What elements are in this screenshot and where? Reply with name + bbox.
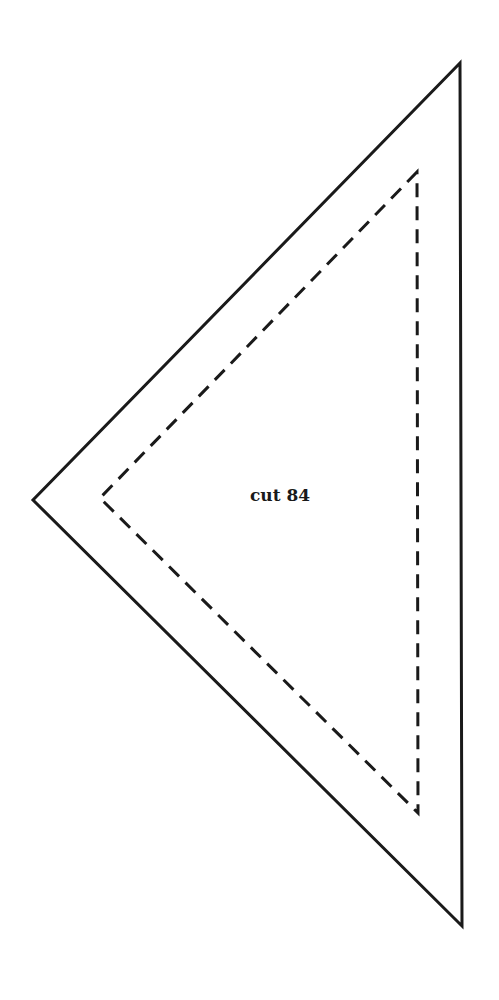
piece-label: cut 84 — [250, 485, 310, 505]
